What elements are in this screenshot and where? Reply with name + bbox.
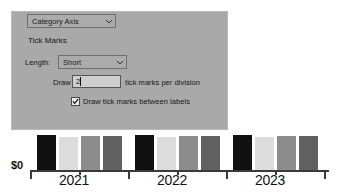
bar[interactable] — [81, 136, 100, 170]
axis-tick-major — [226, 170, 228, 179]
bar[interactable] — [179, 136, 198, 170]
axis-tick-minor — [177, 170, 179, 175]
chart-plot-area: 202120222023 — [0, 128, 342, 195]
length-select[interactable]: Short — [58, 55, 127, 69]
bar[interactable] — [37, 135, 56, 170]
draw-tick-marks-between-labels-checkbox[interactable] — [71, 97, 80, 106]
axis-tick-major — [30, 170, 32, 179]
draw-suffix-label: tick marks per division — [125, 78, 200, 87]
axis-tick-minor — [79, 170, 81, 175]
bar[interactable] — [299, 136, 318, 170]
screenshot-root: Category Axis Tick Marks Length: Short D… — [0, 0, 342, 195]
text-caret — [80, 77, 81, 86]
bar[interactable] — [277, 136, 296, 170]
x-axis-category-label: 2021 — [59, 172, 89, 188]
bar[interactable] — [157, 137, 176, 170]
bar[interactable] — [135, 135, 154, 170]
tick-marks-dialog-panel: Category Axis Tick Marks Length: Short D… — [11, 11, 228, 130]
bar[interactable] — [103, 136, 122, 170]
length-label: Length: — [25, 58, 50, 67]
y-axis-tick-label: $0 — [11, 159, 23, 171]
check-icon — [72, 98, 79, 105]
axis-tick-major — [128, 170, 130, 179]
axis-select-value: Category Axis — [28, 17, 103, 26]
bar[interactable] — [233, 135, 252, 170]
draw-tick-marks-between-labels-label: Draw tick marks between labels — [83, 97, 190, 106]
axis-select[interactable]: Category Axis — [27, 14, 116, 28]
x-axis-category-label: 2022 — [157, 172, 187, 188]
length-select-value: Short — [59, 58, 114, 67]
bar[interactable] — [201, 136, 220, 170]
bar[interactable] — [255, 137, 274, 170]
chevron-down-icon — [114, 60, 126, 65]
axis-tick-minor — [275, 170, 277, 175]
section-title-tick-marks: Tick Marks — [28, 36, 67, 45]
x-axis-category-label: 2023 — [255, 172, 285, 188]
bar[interactable] — [59, 137, 78, 170]
tick-marks-per-division-input[interactable]: 2 — [72, 75, 121, 88]
bar-chart: 202120222023 $0 — [0, 128, 342, 195]
draw-prefix-label: Draw — [53, 78, 71, 87]
chevron-down-icon — [103, 19, 115, 24]
axis-tick-major — [324, 170, 326, 179]
tick-marks-per-division-value: 2 — [73, 77, 80, 86]
